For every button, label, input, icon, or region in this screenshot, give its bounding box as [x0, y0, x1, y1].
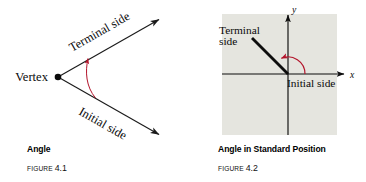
terminal-side-label: Terminal side: [67, 9, 133, 55]
angle-sweep-arc: [86, 59, 95, 99]
standard-position-diagram: x y Terminal side Initial side: [183, 0, 366, 145]
angle-diagram: Vertex Terminal side Initial side: [0, 0, 183, 145]
figure-angle: Vertex Terminal side Initial side Angle …: [0, 0, 183, 182]
caption-figure-word: FIGURE: [218, 165, 246, 172]
caption-title: Angle in Standard Position: [218, 145, 326, 154]
caption-figure-line: FIGURE 4.2: [218, 158, 326, 174]
caption-figure-number: 4.1: [55, 163, 67, 173]
initial-side-label: Initial side: [77, 104, 130, 142]
vertex-label: Vertex: [15, 70, 49, 84]
y-axis-label: y: [291, 4, 297, 15]
figure-angle-caption: Angle FIGURE 4.1: [27, 145, 67, 174]
x-axis-label: x: [349, 69, 355, 80]
figure-standard-position: x y Terminal side Initial side Angle in …: [183, 0, 366, 182]
figure-pair-page: Vertex Terminal side Initial side Angle …: [0, 0, 366, 182]
caption-figure-word: FIGURE: [27, 165, 55, 172]
caption-figure-line: FIGURE 4.1: [27, 158, 67, 174]
figure-standard-caption: Angle in Standard Position FIGURE 4.2: [218, 145, 326, 174]
initial-side-label: Initial side: [287, 77, 335, 89]
vertex-dot: [55, 74, 62, 81]
caption-figure-number: 4.2: [246, 163, 258, 173]
terminal-side-label-line2: side: [219, 35, 237, 47]
caption-title: Angle: [27, 145, 67, 154]
